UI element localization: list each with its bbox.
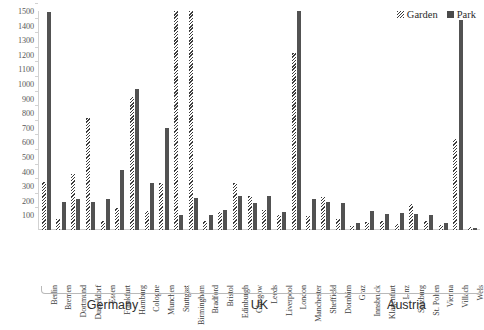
bar-park-manchester [312, 199, 316, 230]
group-label-austria: Austria [387, 298, 426, 312]
bar-park-dortmund [76, 199, 80, 230]
y-axis-tick-label: 1000 [18, 80, 34, 89]
bar-park-innsbruck [370, 211, 374, 230]
group-bracket-austria [335, 286, 481, 294]
y-axis-tick-mark [35, 61, 38, 62]
bar-garden-klagenfurt [380, 221, 384, 230]
bar-garden-bristol [218, 212, 222, 230]
bar-garden-cologne [145, 211, 149, 230]
bar-park-wels [473, 228, 477, 230]
bar-park-dornbirn [341, 203, 345, 230]
bar-park-villach [459, 20, 463, 230]
bar-garden-salzburg [409, 204, 413, 230]
y-axis-tick-label: 700 [22, 123, 34, 132]
y-axis-tick-mark [35, 207, 38, 208]
y-axis-tick-label: 1300 [18, 36, 34, 45]
y-axis-tick-label: 100 [22, 211, 34, 220]
bar-garden-stuttgart [174, 11, 178, 230]
x-axis-labels: BerlinBremenDortmundDusseldorfEssenFrank… [39, 231, 480, 287]
bar-park-munchen [165, 128, 169, 230]
bar-garden-munchen [159, 183, 163, 230]
y-axis-tick-label: 1500 [18, 7, 34, 16]
bar-garden-glasgow [248, 196, 252, 230]
bar-park-cologne [150, 183, 154, 230]
bar-garden-leeds [262, 210, 266, 230]
bar-garden-edinburgh [233, 183, 237, 230]
y-axis-tick-label: 1100 [18, 65, 34, 74]
bar-garden-st-polten [424, 221, 428, 230]
bar-garden-berlin [42, 182, 46, 230]
bar-park-leeds [267, 196, 271, 230]
bar-garden-frankfurt [115, 208, 119, 230]
bar-garden-london [292, 53, 296, 230]
group-label-germany: Germany [87, 298, 138, 312]
bar-park-dusseldorf [91, 202, 95, 230]
bar-garden-bremen [56, 219, 60, 230]
bar-park-bradford [209, 215, 213, 230]
y-axis-tick-label: 1400 [18, 21, 34, 30]
y-axis-tick-label: 400 [22, 167, 34, 176]
bar-park-berlin [47, 12, 51, 230]
y-axis-tick-mark [35, 18, 38, 19]
y-axis-tick-label: 600 [22, 138, 34, 147]
y-axis-tick-label: 800 [22, 109, 34, 118]
y-axis-tick-mark [35, 120, 38, 121]
bar-chart: Garden Park 1500140013001200110010009008… [0, 0, 484, 330]
bar-garden-vienna [439, 225, 443, 230]
bar-garden-dortmund [71, 174, 75, 230]
bar-park-hamburg [135, 89, 139, 230]
bar-park-sheffield [326, 202, 330, 230]
y-axis-tick-mark [35, 32, 38, 33]
y-axis-tick-mark [35, 91, 38, 92]
y-axis-tick-label: 900 [22, 94, 34, 103]
bar-garden-graz [350, 226, 354, 230]
bar-park-klagenfurt [385, 214, 389, 230]
bar-garden-liverpool [277, 215, 281, 230]
bar-park-graz [356, 223, 360, 230]
bar-park-salzburg [414, 214, 418, 230]
plot-area [39, 11, 480, 230]
bar-park-liverpool [282, 212, 286, 230]
bar-park-essen [106, 199, 110, 230]
y-axis-tick-mark [35, 76, 38, 77]
bar-park-london [297, 11, 301, 230]
bar-park-glasgow [253, 203, 257, 230]
y-axis-tick-mark [35, 178, 38, 179]
y-axis-tick-mark [35, 164, 38, 165]
bar-park-birmingham [194, 198, 198, 230]
bar-garden-innsbruck [365, 222, 369, 230]
y-axis-tick-label: 200 [22, 196, 34, 205]
bar-garden-villach [453, 139, 457, 230]
bar-park-frankfurt [120, 170, 124, 230]
bar-garden-sheffield [321, 197, 325, 230]
y-axis-tick-mark [35, 105, 38, 106]
y-axis-tick-label: 300 [22, 182, 34, 191]
bar-garden-hamburg [130, 97, 134, 230]
bar-garden-wels [468, 227, 472, 230]
bar-garden-dusseldorf [86, 118, 90, 230]
bar-garden-birmingham [189, 11, 193, 230]
group-label-uk: UK [251, 298, 268, 312]
bar-park-edinburgh [238, 196, 242, 230]
y-axis-tick-label: 500 [22, 153, 34, 162]
y-axis-tick-mark [35, 193, 38, 194]
bar-park-bremen [62, 202, 66, 230]
bar-garden-essen [101, 221, 105, 230]
y-axis-tick-label: 1200 [18, 50, 34, 59]
group-bracket-germany [41, 286, 187, 294]
y-axis-tick-mark [35, 47, 38, 48]
y-axis-tick-mark [35, 3, 38, 4]
bar-garden-dornbirn [336, 219, 340, 230]
group-bracket-uk [188, 286, 334, 294]
y-axis-tick-mark [35, 134, 38, 135]
bar-park-stuttgart [179, 215, 183, 230]
bar-park-bristol [223, 210, 227, 230]
bar-garden-bradford [203, 221, 207, 230]
bar-park-linz [400, 213, 404, 230]
y-axis: 1500140013001200110010009008007006005004… [0, 8, 38, 230]
y-axis-tick-mark [35, 149, 38, 150]
bar-park-st-polten [429, 215, 433, 230]
bar-garden-linz [395, 224, 399, 230]
bar-park-vienna [444, 223, 448, 230]
bar-garden-manchester [306, 216, 310, 230]
